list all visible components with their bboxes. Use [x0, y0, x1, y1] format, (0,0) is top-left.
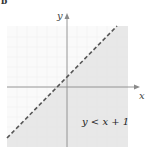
x-axis-arrow-icon [134, 85, 140, 90]
inequality-label: y < x + 1 [81, 116, 129, 127]
x-axis-label: x [139, 90, 145, 101]
y-axis-label: y [56, 10, 63, 21]
inequality-graph: x y y < x + 1 [0, 0, 149, 150]
y-axis-arrow-icon [65, 13, 70, 19]
